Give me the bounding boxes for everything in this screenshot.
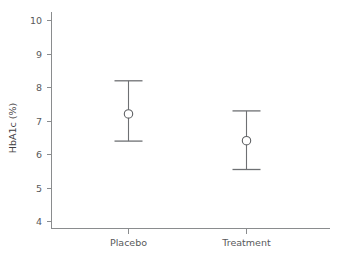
mean-marker-placebo: [124, 110, 132, 118]
errorbar-chart: 10 9 8 7 6 5 4 HbA1c (%) Placebo Treatme…: [0, 0, 344, 270]
x-axis-ticks: [129, 229, 247, 234]
x-axis-tick-labels: Placebo Treatment: [110, 237, 271, 248]
chart-canvas: 10 9 8 7 6 5 4 HbA1c (%) Placebo Treatme…: [0, 0, 344, 270]
y-tick-label-9: 9: [36, 49, 42, 60]
y-tick-label-5: 5: [36, 183, 42, 194]
mean-marker-treatment: [242, 137, 250, 145]
datapoint-placebo: [115, 81, 143, 141]
y-tick-label-7: 7: [36, 116, 42, 127]
y-tick-label-8: 8: [36, 82, 42, 93]
x-tick-label-treatment: Treatment: [221, 237, 271, 248]
datapoint-treatment: [233, 111, 261, 170]
y-tick-label-6: 6: [36, 149, 42, 160]
x-tick-label-placebo: Placebo: [110, 237, 147, 248]
y-tick-label-10: 10: [30, 15, 42, 26]
y-axis-title: HbA1c (%): [7, 103, 18, 153]
y-axis-ticks: [47, 21, 52, 222]
y-axis-tick-labels: 10 9 8 7 6 5 4: [30, 15, 42, 227]
y-tick-label-4: 4: [36, 216, 42, 227]
